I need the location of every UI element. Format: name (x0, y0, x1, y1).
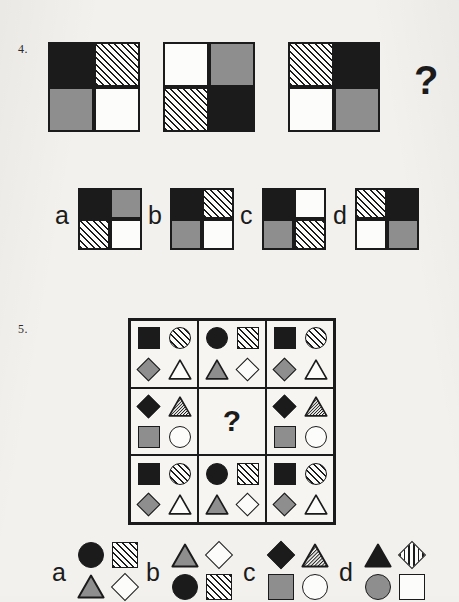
diamond-white-bottom-right (235, 357, 259, 381)
square-cell-top-left-black (170, 188, 202, 219)
diamond-black-top-left (267, 541, 295, 569)
triangle-hatch-top-right (301, 543, 329, 568)
cell-r3c2 (198, 455, 266, 523)
triangle-hatch-top-right (304, 396, 328, 417)
triangle-white-bottom-right (304, 359, 328, 380)
square-cell-top-left-black (262, 188, 294, 219)
q4-option-c[interactable] (262, 188, 326, 250)
square-cell-bottom-left-hatch (78, 219, 110, 250)
circle-hatch-top-right (169, 463, 191, 485)
cell-r1c3 (266, 320, 334, 388)
circle-hatch-top-right (169, 327, 191, 349)
triangle-hatch-top-right (168, 396, 192, 417)
square-black-top-left (274, 463, 296, 485)
diamond-white-top-right (205, 541, 233, 569)
q4-option-d[interactable] (355, 188, 419, 250)
q5-option-c-letter[interactable]: c (243, 560, 256, 585)
cell-r3c1 (130, 455, 198, 523)
diamond-gray-bottom-left (272, 493, 296, 517)
triangle-gray-bottom-left (205, 494, 229, 515)
square-cell-top-right-black (387, 188, 419, 219)
cell-r2c1 (130, 388, 198, 456)
square-cell-bottom-left-hatch (163, 87, 209, 132)
square-hatch-bottom-right (206, 574, 232, 600)
square-cell-top-right-gray (110, 188, 142, 219)
q5-option-a-letter[interactable]: a (52, 560, 66, 585)
diamond-white-bottom-right (235, 493, 259, 517)
q4-series-panel-3 (288, 42, 380, 132)
circle-gray-bottom-left (365, 574, 391, 600)
square-cell-bottom-left-white (355, 219, 387, 250)
square-hatch-top-right (237, 463, 259, 485)
circle-white-bottom-right (302, 574, 328, 600)
q4-option-a[interactable] (78, 188, 142, 250)
circle-black-bottom-left (172, 574, 198, 600)
square-cell-top-right-black (334, 42, 380, 87)
diamond-black-top-left (272, 394, 296, 418)
q5-option-d[interactable] (361, 540, 429, 602)
square-cell-top-left-black (48, 42, 94, 87)
square-cell-top-right-white (294, 188, 326, 219)
triangle-gray-bottom-left (77, 574, 105, 599)
q5-option-c[interactable] (264, 540, 332, 602)
square-cell-top-left-hatch (355, 188, 387, 219)
diamond-gray-bottom-left (136, 493, 160, 517)
square-cell-bottom-right-hatch (294, 219, 326, 250)
q4-series-panel-2 (163, 42, 255, 132)
diamond-white-bottom-right (111, 573, 139, 601)
cell-r2c3 (266, 388, 334, 456)
circle-black-top-left (206, 463, 228, 485)
square-cell-bottom-right-white (202, 219, 234, 250)
q4-option-b-letter[interactable]: b (148, 203, 162, 228)
q4-option-c-letter[interactable]: c (240, 203, 253, 228)
circle-white-bottom-right (305, 426, 327, 448)
square-cell-top-left-black (78, 188, 110, 219)
square-cell-top-left-white (163, 42, 209, 87)
question-5-number: 5. (18, 322, 28, 337)
circle-hatch-top-right (305, 463, 327, 485)
square-cell-bottom-left-gray (262, 219, 294, 250)
triangle-gray-top-left (171, 543, 199, 568)
square-cell-bottom-right-black (209, 87, 255, 132)
square-cell-bottom-right-gray (387, 219, 419, 250)
q5-matrix: ? (128, 318, 336, 525)
q4-option-b[interactable] (170, 188, 234, 250)
square-cell-top-right-hatch (202, 188, 234, 219)
circle-white-bottom-right (169, 426, 191, 448)
square-cell-top-right-hatch (94, 42, 140, 87)
circle-black-top-left (78, 542, 104, 568)
cell-r1c2 (198, 320, 266, 388)
q5-option-b[interactable] (168, 540, 236, 602)
cell-r3c3 (266, 455, 334, 523)
triangle-gray-bottom-left (205, 359, 229, 380)
square-cell-bottom-right-white (94, 87, 140, 132)
q4-option-d-letter[interactable]: d (333, 203, 347, 228)
square-cell-top-right-gray (209, 42, 255, 87)
question-4-number: 4. (18, 42, 28, 57)
q4-series-panel-1 (48, 42, 140, 132)
circle-hatch-top-right (305, 327, 327, 349)
q5-option-b-letter[interactable]: b (146, 560, 160, 585)
q5-question-mark: ? (223, 406, 241, 436)
diamond-black-top-left (136, 394, 160, 418)
q4-option-a-letter[interactable]: a (55, 203, 69, 228)
square-gray-bottom-left (138, 426, 160, 448)
diamond-gray-bottom-left (272, 357, 296, 381)
square-cell-bottom-left-gray (48, 87, 94, 132)
q5-option-d-letter[interactable]: d (339, 560, 353, 585)
triangle-white-bottom-right (304, 494, 328, 515)
square-cell-bottom-right-gray (334, 87, 380, 132)
square-black-top-left (138, 327, 160, 349)
triangle-white-bottom-right (168, 494, 192, 515)
square-cell-bottom-right-white (110, 219, 142, 250)
diamond-hatch-top-right (398, 541, 426, 569)
square-black-top-left (274, 327, 296, 349)
square-gray-bottom-left (268, 574, 294, 600)
square-white-bottom-right (399, 574, 425, 600)
cell-r1c1 (130, 320, 198, 388)
diamond-gray-bottom-left (136, 357, 160, 381)
q5-option-a[interactable] (74, 540, 142, 602)
cell-r2c2: ? (198, 388, 266, 456)
square-black-top-left (138, 463, 160, 485)
